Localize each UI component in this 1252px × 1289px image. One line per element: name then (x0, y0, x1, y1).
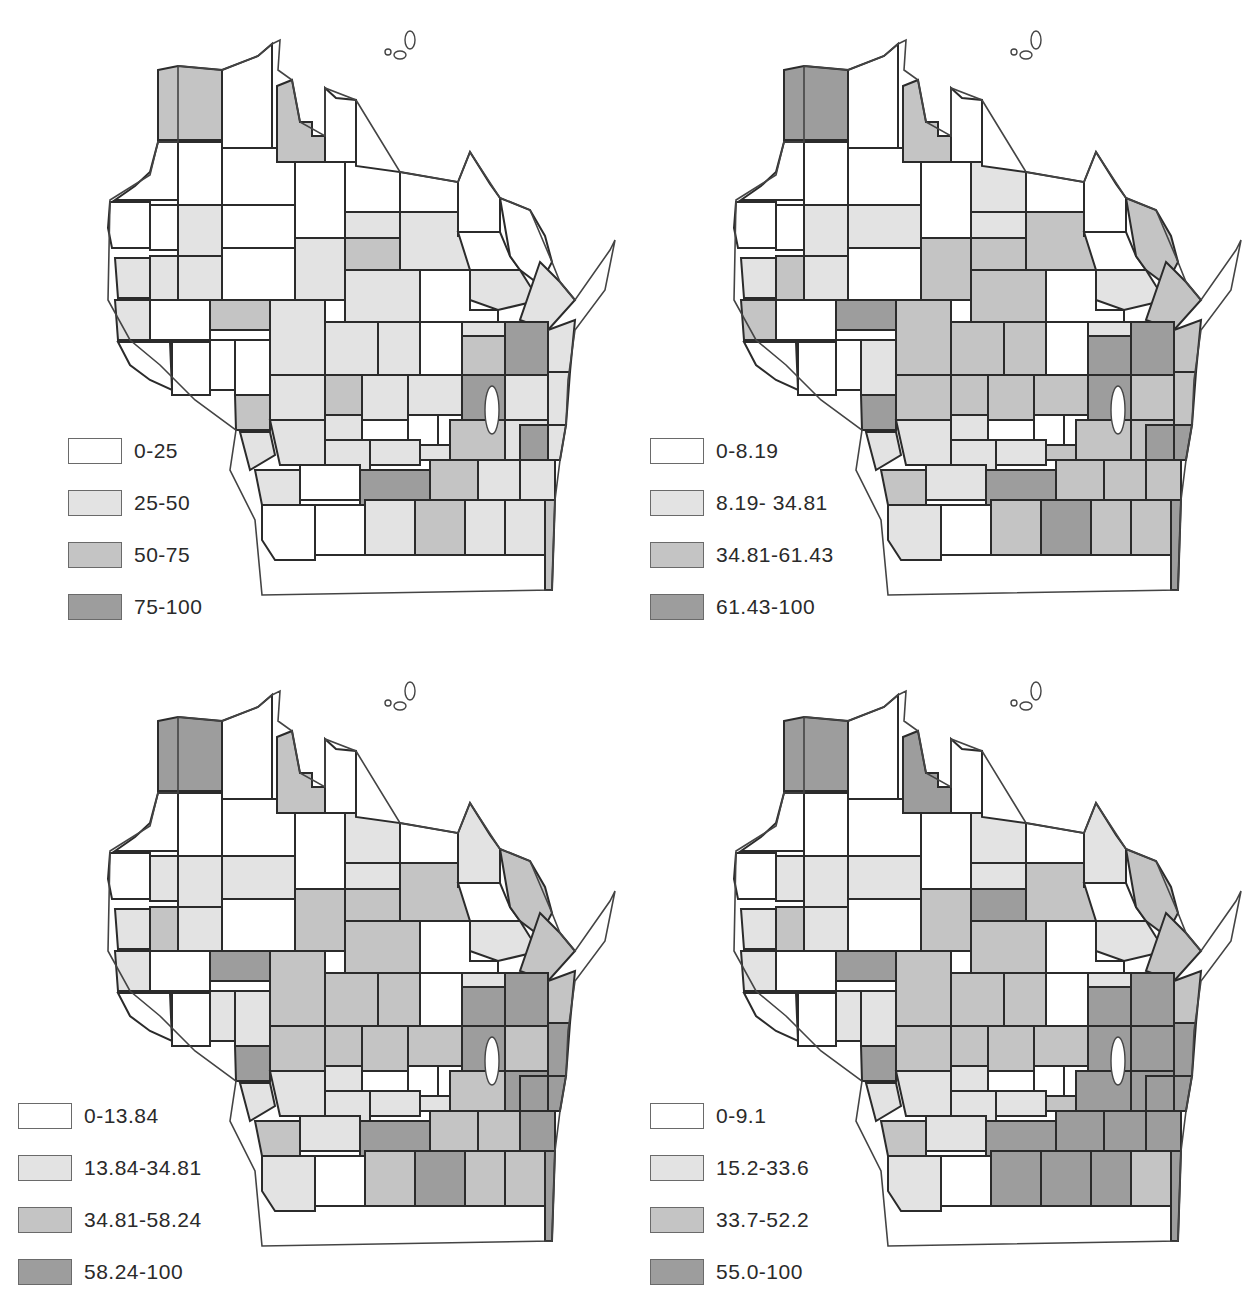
county-region (430, 460, 478, 500)
county-region (222, 856, 295, 899)
county-region (1104, 460, 1146, 500)
county-region (888, 1156, 941, 1211)
county-region (951, 1066, 988, 1091)
county-region (1041, 1151, 1091, 1206)
county-region (172, 993, 210, 1046)
legend-label: 13.84-34.81 (84, 1156, 202, 1180)
island (405, 31, 415, 49)
county-region (1088, 336, 1136, 375)
county-region (1131, 1026, 1174, 1071)
county-region (235, 991, 270, 1046)
county-region (270, 420, 325, 465)
county-region (1046, 973, 1088, 1026)
county-region (1056, 1111, 1104, 1151)
county-region (951, 739, 982, 813)
county-region (295, 889, 345, 951)
county-region (776, 951, 836, 991)
county-region (345, 238, 400, 270)
county-region (420, 445, 450, 460)
county-region (345, 889, 400, 921)
legend-item: 15.2-33.6 (650, 1142, 809, 1194)
county-region (462, 987, 510, 1026)
county-region (210, 340, 235, 390)
county-region (1104, 1111, 1146, 1151)
county-region (988, 375, 1034, 420)
legend-swatch (18, 1103, 72, 1129)
county-region (345, 162, 400, 212)
county-region (520, 1111, 555, 1151)
county-region (848, 248, 921, 300)
county-region (150, 907, 178, 951)
county-region (784, 717, 848, 791)
county-region (295, 238, 345, 300)
county-region (378, 973, 420, 1026)
legend-label: 33.7-52.2 (716, 1208, 809, 1232)
county-region (1131, 973, 1174, 1026)
county-region (345, 270, 420, 322)
county-region (861, 991, 896, 1046)
county-region (115, 951, 150, 991)
county-region (325, 1026, 362, 1066)
island (394, 702, 406, 710)
county-region (325, 739, 356, 813)
county-region (996, 1091, 1046, 1116)
legend-swatch (68, 438, 122, 464)
county-region (996, 440, 1046, 465)
legend-label: 58.24-100 (84, 1260, 183, 1284)
county-region (896, 1026, 951, 1071)
county-region (971, 270, 1046, 322)
county-region (1056, 460, 1104, 500)
legend-label: 8.19- 34.81 (716, 491, 828, 515)
county-region (881, 470, 926, 505)
county-region (861, 340, 896, 395)
county-region (741, 258, 776, 298)
county-region (1046, 322, 1088, 375)
county-region (1034, 1026, 1088, 1066)
county-region (505, 500, 545, 555)
county-region (991, 500, 1041, 555)
county-region (776, 300, 836, 340)
county-region (971, 212, 1026, 238)
county-region (505, 322, 548, 375)
county-region (270, 1071, 325, 1116)
county-region (951, 375, 988, 415)
county-region (1041, 500, 1091, 555)
legend-item: 13.84-34.81 (18, 1142, 202, 1194)
county-region (270, 375, 325, 420)
county-region (222, 899, 295, 951)
county-region (505, 375, 548, 420)
legend-item: 0-8.19 (650, 425, 834, 477)
county-region (941, 505, 991, 555)
county-region (178, 907, 222, 951)
county-region (408, 1026, 462, 1066)
county-region (178, 142, 222, 205)
county-region (325, 973, 378, 1026)
map-legend: 0-9.115.2-33.633.7-52.255.0-100 (650, 1090, 809, 1289)
county-region (1131, 500, 1171, 555)
county-region (951, 322, 1004, 375)
legend-label: 55.0-100 (716, 1260, 803, 1284)
island (394, 51, 406, 59)
county-region (1146, 1076, 1174, 1111)
county-region (478, 460, 520, 500)
county-region (108, 853, 150, 899)
legend-label: 61.43-100 (716, 595, 815, 619)
county-region (295, 162, 345, 238)
county-region (921, 238, 971, 300)
county-region (115, 258, 150, 298)
county-region (240, 432, 275, 470)
county-region (836, 951, 896, 981)
legend-label: 50-75 (134, 543, 190, 567)
county-region (971, 863, 1026, 889)
island (405, 682, 415, 700)
legend-label: 75-100 (134, 595, 202, 619)
legend-item: 55.0-100 (650, 1246, 809, 1289)
county-region (478, 1111, 520, 1151)
county-region (1084, 803, 1126, 883)
legend-item: 75-100 (68, 581, 202, 633)
county-region (520, 1076, 548, 1111)
county-region (315, 1156, 365, 1206)
county-region (345, 863, 400, 889)
county-region (776, 205, 804, 250)
county-region (1046, 445, 1076, 460)
